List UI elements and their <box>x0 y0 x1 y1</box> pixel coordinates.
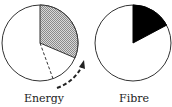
arrow-head-icon <box>79 60 85 69</box>
pie-diagrams <box>0 0 172 107</box>
energy-pie <box>2 5 85 88</box>
fibre-label: Fibre <box>104 92 164 105</box>
energy-label: Energy <box>14 92 74 105</box>
fibre-pie <box>95 5 171 81</box>
